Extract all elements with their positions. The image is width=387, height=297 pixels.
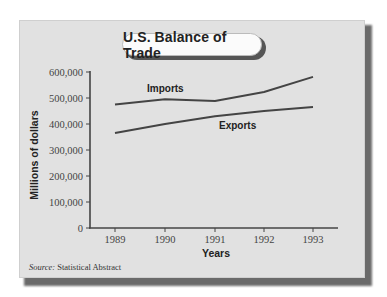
x-tick-label: 1992 [254,234,275,245]
source-value: Statistical Abstract [55,262,121,272]
y-tick-label: 300,000 [49,145,83,156]
y-tick-label: 200,000 [49,171,83,182]
x-tick-label: 1989 [105,234,126,245]
imports-line [115,77,313,105]
x-tick-label: 1991 [205,234,226,245]
y-axis-title: Millions of dollars [28,110,40,199]
imports-label: Imports [147,83,184,94]
y-tick-label: 100,000 [49,197,83,208]
y-tick-label: 600,000 [49,67,83,78]
y-tick-labels: 600,000 500,000 400,000 300,000 200,000 … [49,67,83,234]
exports-line [115,107,313,133]
x-tick-label: 1993 [303,234,324,245]
y-tick-label: 0 [78,223,83,234]
exports-label: Exports [219,120,257,131]
y-tick-label: 400,000 [49,119,83,130]
x-tick-labels: 1989 1990 1991 1992 1993 [105,234,324,245]
source-key: Source: [29,262,55,272]
source-note: Source: Statistical Abstract [29,262,121,272]
x-axis-title: Years [202,247,230,259]
x-tick-label: 1990 [155,234,176,245]
chart-plot: 600,000 500,000 400,000 300,000 200,000 … [0,0,387,297]
y-tick-label: 500,000 [49,93,83,104]
